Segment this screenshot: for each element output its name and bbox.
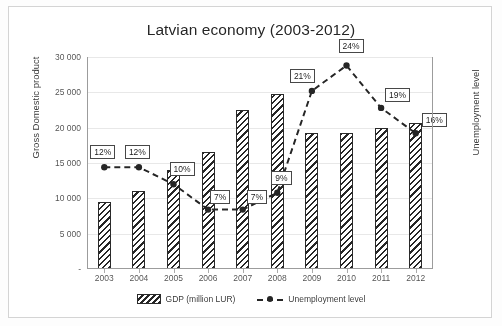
legend-item-gdp[interactable]: GDP (million LUR) (137, 294, 236, 304)
data-label-2004: 12% (125, 145, 150, 159)
y-axis-title-right: Unemployment level (470, 43, 481, 183)
line-marker-2009[interactable] (309, 88, 315, 94)
y-axis-tick-label-left: 20 000 (13, 123, 81, 133)
x-axis-tick-label: 2010 (330, 273, 364, 283)
data-label-2007: 7% (247, 190, 267, 204)
data-label-2005: 10% (170, 162, 195, 176)
x-axis-tick-label: 2008 (260, 273, 294, 283)
chart-legend: GDP (million LUR) Unemployment level (9, 294, 493, 304)
y-axis-tick-label-left: 25 000 (13, 87, 81, 97)
y-axis-tick-label-left: 15 000 (13, 158, 81, 168)
legend-label-gdp: GDP (million LUR) (166, 294, 236, 304)
data-label-2006: 7% (210, 190, 230, 204)
legend-swatch-line-icon (257, 295, 283, 303)
chart-title: Latvian economy (2003-2012) (9, 21, 493, 39)
line-marker-2011[interactable] (378, 105, 384, 111)
x-axis-line (87, 268, 433, 269)
x-axis-tick-label: 2005 (157, 273, 191, 283)
legend-swatch-bar-icon (137, 294, 161, 304)
x-axis-tick-label: 2004 (122, 273, 156, 283)
data-label-2003: 12% (90, 145, 115, 159)
y-axis-line-left (87, 57, 88, 269)
y-axis-tick-label-left: 5 000 (13, 229, 81, 239)
unemployment-line (104, 66, 415, 210)
legend-label-unemployment: Unemployment level (288, 294, 365, 304)
y-axis-tick-label-left: 10 000 (13, 193, 81, 203)
line-series (87, 57, 433, 269)
data-label-2010: 24% (339, 39, 364, 53)
plot-area: 30 00025 00020 00015 00010 0005 000- 25%… (87, 57, 433, 269)
data-label-2012: 16% (422, 113, 447, 127)
line-marker-2005[interactable] (170, 181, 176, 187)
line-marker-2007[interactable] (240, 206, 246, 212)
x-axis-tick-label: 2007 (226, 273, 260, 283)
chart-container: Latvian economy (2003-2012) Gross Domest… (8, 6, 492, 318)
y-axis-tick-label-left: 30 000 (13, 52, 81, 62)
line-marker-2004[interactable] (136, 164, 142, 170)
line-marker-2008[interactable] (274, 190, 280, 196)
data-label-2011: 19% (385, 88, 410, 102)
data-label-2009: 21% (290, 69, 315, 83)
line-marker-2006[interactable] (205, 206, 211, 212)
y-axis-line-right (432, 57, 433, 269)
line-marker-2003[interactable] (101, 164, 107, 170)
x-axis-tick-label: 2006 (191, 273, 225, 283)
data-label-2008: 9% (271, 171, 291, 185)
x-axis-tick-label: 2003 (87, 273, 121, 283)
line-marker-2012[interactable] (413, 130, 419, 136)
x-axis-tick-label: 2009 (295, 273, 329, 283)
x-axis-tick-label: 2011 (364, 273, 398, 283)
legend-item-unemployment[interactable]: Unemployment level (257, 294, 365, 304)
y-axis-tick-label-left: - (13, 264, 81, 274)
line-marker-2010[interactable] (343, 62, 349, 68)
x-axis-tick-label: 2012 (399, 273, 433, 283)
